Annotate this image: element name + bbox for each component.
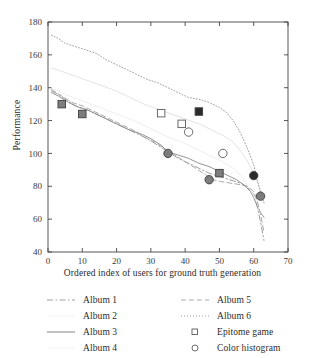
circle-marker-gray (256, 192, 264, 200)
square-marker-gray (216, 169, 224, 177)
legend-item-label: Album 2 (83, 311, 117, 321)
legend-item-label: Album 4 (83, 343, 117, 353)
y-tick-label: 160 (29, 50, 43, 60)
open-circle-marker (180, 341, 210, 355)
chart-legend: Album 1Album 2Album 3Album 4 Album 5Albu… (0, 292, 325, 358)
legend-item-album-6[interactable]: Album 6 (180, 308, 281, 324)
open-square-marker (180, 325, 210, 339)
y-tick-label: 60 (33, 214, 43, 224)
legend-item-album-5[interactable]: Album 5 (180, 292, 281, 308)
dashed-line (180, 293, 210, 307)
x-tick-label: 20 (112, 256, 122, 266)
circle-marker-gray (164, 149, 172, 157)
light-line (46, 341, 76, 355)
x-tick-label: 10 (78, 256, 88, 266)
y-tick-label: 180 (29, 17, 43, 27)
legend-item-album-1[interactable]: Album 1 (46, 292, 117, 308)
square-marker-open (178, 120, 186, 128)
legend-column-left: Album 1Album 2Album 3Album 4 (46, 292, 117, 356)
dotted-line (180, 309, 210, 323)
solid-line (46, 325, 76, 339)
series-group (51, 35, 264, 240)
x-tick-label: 40 (181, 256, 191, 266)
y-tick-label: 100 (29, 149, 43, 159)
legend-item-label: Album 5 (217, 295, 251, 305)
y-tick-label: 120 (29, 116, 43, 126)
legend-item-epitome-game[interactable]: Epitome game (180, 324, 281, 340)
legend-item-label: Epitome game (217, 327, 273, 337)
x-tick-label: 70 (284, 256, 294, 266)
legend-item-label: Album 1 (83, 295, 117, 305)
light-line (46, 309, 76, 323)
square-marker-gray (58, 100, 66, 108)
square-marker-dark (195, 108, 203, 116)
series-line-album-4 (51, 88, 260, 215)
y-tick-label: 80 (33, 181, 43, 191)
x-tick-label: 0 (46, 256, 51, 266)
plot-area: 010203040506070406080100120140160180 (0, 0, 325, 285)
legend-item-album-4[interactable]: Album 4 (46, 340, 117, 356)
legend-item-label: Album 3 (83, 327, 117, 337)
circle-marker-dark (250, 171, 258, 179)
square-marker-open (157, 109, 165, 117)
legend-item-label: Album 6 (217, 311, 251, 321)
legend-column-right: Album 5Album 6Epitome gameColor histogra… (180, 292, 281, 356)
x-axis-label: Ordered index of users for ground truth … (0, 268, 325, 278)
legend-item-album-2[interactable]: Album 2 (46, 308, 117, 324)
series-line-album-2 (51, 68, 264, 203)
legend-item-label: Color histogram (217, 343, 281, 353)
y-tick-label: 140 (29, 83, 43, 93)
legend-item-color-histogram[interactable]: Color histogram (180, 340, 281, 356)
x-tick-label: 30 (146, 256, 156, 266)
circle-marker-open (219, 149, 227, 157)
legend-item-album-3[interactable]: Album 3 (46, 324, 117, 340)
y-axis-label: Performance (12, 80, 22, 170)
dash-dot-line (46, 293, 76, 307)
x-tick-label: 60 (249, 256, 259, 266)
square-marker-gray (79, 110, 87, 118)
circle-marker-gray (205, 176, 213, 184)
chart-svg: 010203040506070406080100120140160180 (0, 0, 325, 285)
y-tick-label: 40 (33, 247, 43, 257)
figure-container: 010203040506070406080100120140160180 Per… (0, 0, 325, 358)
x-tick-label: 50 (215, 256, 225, 266)
circle-marker-open (184, 128, 192, 136)
